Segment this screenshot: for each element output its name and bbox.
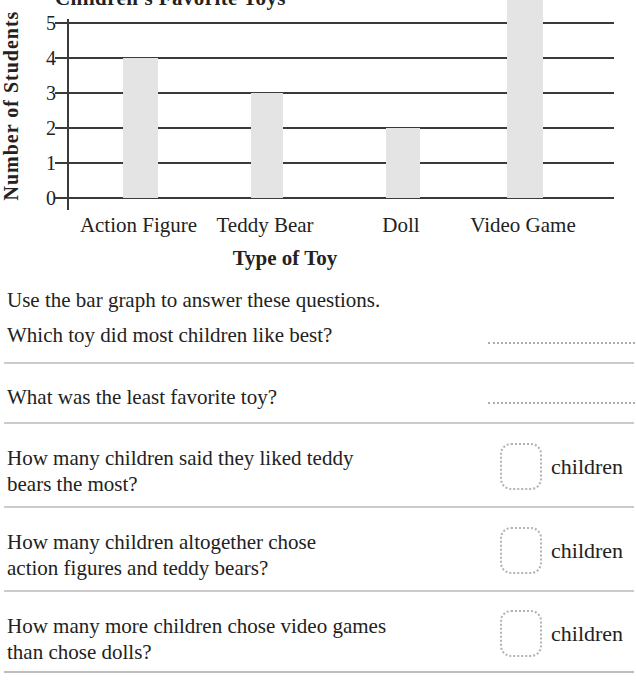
- question-3-text: How many children said they liked teddy …: [7, 445, 353, 497]
- question-line: How many children altogether chose: [7, 529, 316, 555]
- question-line: action figures and teddy bears?: [7, 555, 316, 581]
- answer-line-2[interactable]: [488, 402, 635, 404]
- y-tick-1: 1: [28, 152, 56, 174]
- category-label-teddy-bear: Teddy Bear: [216, 213, 313, 238]
- y-tick-5: 5: [28, 12, 56, 34]
- answer-line-1[interactable]: [488, 342, 635, 344]
- category-label-video-game: Video Game: [470, 213, 575, 238]
- divider: [4, 506, 634, 508]
- question-4-text: How many children altogether chose actio…: [7, 529, 316, 581]
- unit-label-4: children: [551, 538, 623, 564]
- x-axis-label: Type of Toy: [0, 246, 570, 271]
- y-tick-4: 4: [28, 47, 56, 69]
- y-tick-3: 3: [28, 82, 56, 104]
- question-line: than chose dolls?: [7, 639, 386, 665]
- divider: [4, 362, 634, 364]
- question-line: What was the least favorite toy?: [7, 384, 277, 410]
- category-label-doll: Doll: [382, 213, 419, 238]
- bar-action-figure: [123, 58, 158, 198]
- chart-title: Children's Favorite Toys: [55, 0, 286, 11]
- answer-box-5[interactable]: [500, 610, 542, 657]
- question-line: How many more children chose video games: [7, 613, 386, 639]
- bar-teddy-bear: [251, 93, 283, 198]
- y-axis-label: Number of Students: [0, 23, 23, 201]
- bar-chart: Children's Favorite Toys Number of Stude…: [0, 0, 636, 280]
- question-1-text: Which toy did most children like best?: [7, 322, 332, 348]
- answer-box-4[interactable]: [500, 527, 542, 574]
- question-5-text: How many more children chose video games…: [7, 613, 386, 665]
- answer-box-3[interactable]: [500, 443, 542, 490]
- divider: [4, 422, 634, 424]
- instructions-text: Use the bar graph to answer these questi…: [7, 288, 380, 313]
- divider: [4, 590, 634, 592]
- bottom-divider: [4, 671, 634, 673]
- question-line: How many children said they liked teddy: [7, 445, 353, 471]
- bar-video-game: [507, 0, 543, 198]
- unit-label-5: children: [551, 621, 623, 647]
- question-line: Which toy did most children like best?: [7, 322, 332, 348]
- worksheet-page: Children's Favorite Toys Number of Stude…: [0, 0, 636, 682]
- category-label-action-figure: Action Figure: [80, 213, 197, 238]
- y-axis-line: [67, 19, 69, 210]
- y-tick-0: 0: [28, 187, 56, 209]
- y-tick-2: 2: [28, 117, 56, 139]
- question-line: bears the most?: [7, 471, 353, 497]
- unit-label-3: children: [551, 454, 623, 480]
- bar-doll: [386, 128, 420, 198]
- question-2-text: What was the least favorite toy?: [7, 384, 277, 410]
